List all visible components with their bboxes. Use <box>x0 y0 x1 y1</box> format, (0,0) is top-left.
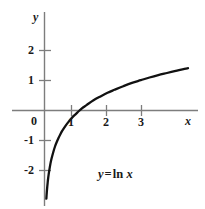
caption-ln-function: ln <box>113 167 124 181</box>
y-tick-label-neg2: -2 <box>24 164 34 176</box>
x-axis-label: x <box>185 115 191 127</box>
origin-label: 0 <box>31 115 37 127</box>
caption-equals: = <box>104 167 113 181</box>
caption-x-symbol: x <box>127 167 133 181</box>
y-axis-label: y <box>33 11 38 23</box>
caption-y-symbol: y <box>98 167 104 181</box>
equation-caption: y=lnx <box>98 168 133 181</box>
y-tick-label-1: 1 <box>28 74 34 86</box>
ln-function-graph-figure: y x 2 1 -1 -2 0 1 2 3 y=lnx <box>0 0 205 209</box>
y-tick-label-2: 2 <box>28 44 34 56</box>
x-tick-label-1: 1 <box>68 116 74 128</box>
y-tick-label-neg1: -1 <box>24 134 34 146</box>
x-tick-label-2: 2 <box>103 116 109 128</box>
x-tick-label-3: 3 <box>138 116 144 128</box>
